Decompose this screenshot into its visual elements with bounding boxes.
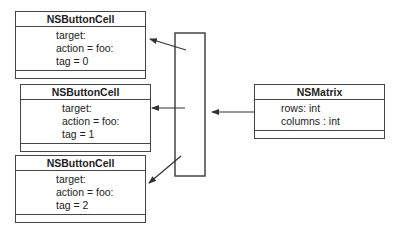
class-title: NSButtonCell: [21, 85, 150, 100]
arrow-to-cell-0: [150, 39, 186, 50]
class-attributes: target: action = foo: tag = 0: [16, 27, 145, 71]
attribute-rows: rows: int: [281, 102, 384, 115]
class-title: NSButtonCell: [16, 12, 145, 27]
attribute-action: action = foo:: [56, 186, 145, 199]
class-attributes: rows: int columns : int: [255, 100, 384, 131]
arrow-to-cell-2: [149, 156, 181, 183]
class-title: NSButtonCell: [16, 156, 145, 171]
attribute-tag: tag = 1: [62, 128, 150, 141]
matrix-box: NSMatrix rows: int columns : int: [254, 84, 385, 139]
attribute-target: target:: [56, 29, 145, 42]
matrix-cells-rect: [175, 33, 205, 176]
attribute-columns: columns : int: [281, 115, 384, 128]
class-operations: [16, 215, 145, 222]
attribute-target: target:: [56, 173, 145, 186]
attribute-action: action = foo:: [62, 115, 150, 128]
button-cell-box-2: NSButtonCell target: action = foo: tag =…: [15, 155, 146, 223]
class-operations: [16, 71, 145, 78]
attribute-action: action = foo:: [56, 42, 145, 55]
class-attributes: target: action = foo: tag = 2: [16, 171, 145, 215]
attribute-target: target:: [62, 102, 150, 115]
button-cell-box-1: NSButtonCell target: action = foo: tag =…: [20, 84, 151, 152]
class-attributes: target: action = foo: tag = 1: [21, 100, 150, 144]
attribute-tag: tag = 2: [56, 199, 145, 212]
class-title: NSMatrix: [255, 85, 384, 100]
attribute-tag: tag = 0: [56, 55, 145, 68]
class-operations: [21, 144, 150, 151]
class-operations: [255, 131, 384, 138]
button-cell-box-0: NSButtonCell target: action = foo: tag =…: [15, 11, 146, 79]
